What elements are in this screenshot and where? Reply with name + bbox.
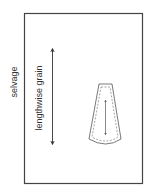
fabric-layout-diagram: selvage lengthwise grain [0, 0, 149, 195]
selvage-label: selvage [9, 66, 19, 97]
lengthwise-grain-label: lengthwise grain [34, 65, 44, 130]
pattern-piece [89, 84, 121, 144]
